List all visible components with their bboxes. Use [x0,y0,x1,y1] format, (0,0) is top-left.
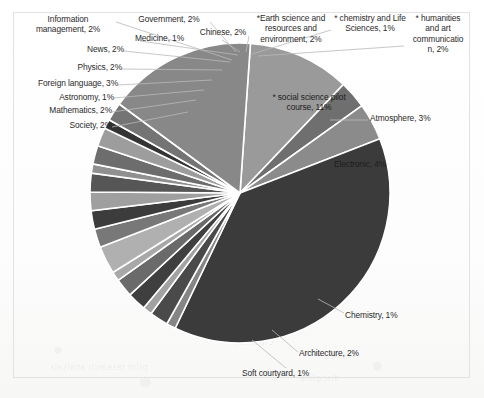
pie-label-architecture: Architecture, 2% [299,348,385,358]
pie-label-mathematics: Mathematics, 2% [14,105,112,115]
pie-label-earth-science: *Earth science and resources and environ… [249,13,333,44]
pie-label-foreign-language: Foreign language, 3% [8,78,118,88]
pie-label-humanities-art: * humanities and art communicatio n, 2% [405,13,471,55]
pie-label-chemistry-life-sciences: * chemistry and Life Sciences, 1% [331,13,409,34]
pie-label-social-science-pilot: * social science pilot course, 11% [262,92,356,113]
pie-label-society: Society, 2% [20,120,112,130]
pie-chart [0,0,484,398]
pie-label-information-management: Information management, 2% [20,14,116,35]
pie-label-electronic: Electronic, 4% [334,159,404,169]
pie-label-medicine: Medicine, 1% [86,33,184,43]
pie-label-astronomy: Astronomy, 1% [20,92,114,102]
pie-label-atmosphere: Atmosphere, 3% [370,113,470,123]
pie-leader-line [252,340,286,368]
pie-label-soft-courtyard: Soft courtyard, 1% [242,368,328,378]
pie-slice-group [90,43,390,343]
pie-label-government: Government, 2% [128,14,210,24]
pie-label-news: News, 2% [30,44,124,54]
pie-label-physics: Physics, 2% [28,62,122,72]
pie-label-chinese: Chinese, 2% [196,27,250,37]
pie-label-chemistry: Chemistry, 1% [345,310,425,320]
